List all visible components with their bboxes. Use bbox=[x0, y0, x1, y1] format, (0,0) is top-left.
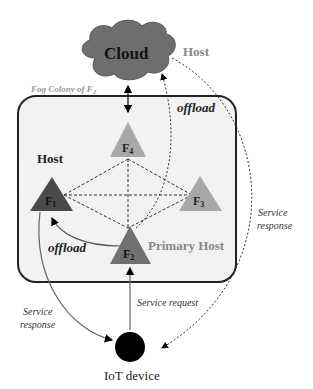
fog-colony-diagram: Cloud Host Fog Colony of F2 offload Serv… bbox=[0, 0, 313, 389]
service-response-right-2: response bbox=[257, 220, 293, 231]
f1-host-label: Host bbox=[37, 151, 64, 166]
service-response-right-1: Service bbox=[258, 207, 288, 218]
f2-primary-host-label: Primary Host bbox=[148, 238, 225, 253]
service-response-left-2: response bbox=[20, 319, 56, 330]
cloud-host-label: Host bbox=[183, 44, 210, 59]
offload-cloud-label: offload bbox=[177, 100, 216, 115]
cloud-label: Cloud bbox=[104, 44, 149, 63]
iot-device-label: IoT device bbox=[104, 368, 160, 383]
service-request-label: Service request bbox=[137, 297, 198, 308]
service-response-left-1: Service bbox=[23, 306, 53, 317]
iot-device-icon bbox=[115, 332, 145, 362]
colony-label: Fog Colony of F2 bbox=[30, 84, 97, 96]
offload-f1-label: offload bbox=[48, 240, 87, 255]
